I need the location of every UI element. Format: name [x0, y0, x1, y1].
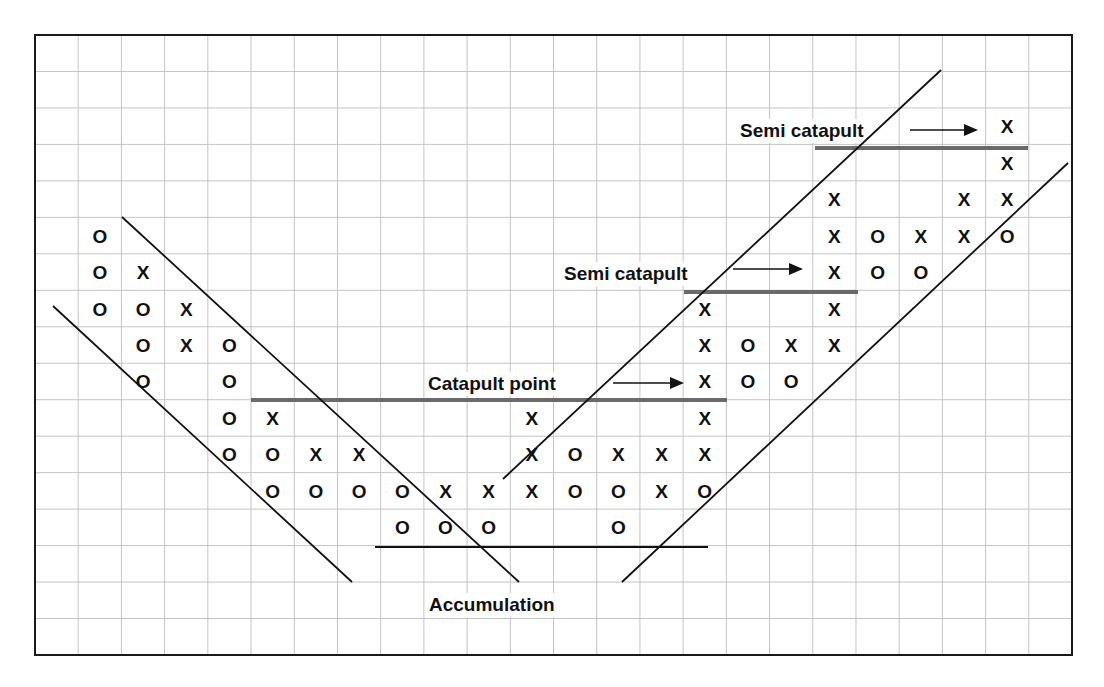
o-box: O	[741, 371, 756, 392]
x-box: X	[655, 481, 668, 502]
x-box: X	[828, 226, 841, 247]
x-box: X	[180, 335, 193, 356]
o-box: O	[92, 262, 107, 283]
x-box: X	[698, 371, 711, 392]
o-box: O	[308, 481, 323, 502]
o-box: O	[136, 299, 151, 320]
x-box: X	[698, 444, 711, 465]
x-box: X	[439, 481, 452, 502]
o-box: O	[395, 481, 410, 502]
x-box: X	[1001, 116, 1014, 137]
x-box: X	[828, 262, 841, 283]
o-box: O	[741, 335, 756, 356]
o-box: O	[611, 517, 626, 538]
x-box: X	[828, 335, 841, 356]
x-box: X	[914, 226, 927, 247]
x-box: X	[1001, 153, 1014, 174]
x-box: X	[180, 299, 193, 320]
o-box: O	[222, 444, 237, 465]
uptrend-lower-line	[622, 163, 1068, 582]
arrow-right-icon	[789, 263, 803, 275]
x-box: X	[698, 408, 711, 429]
o-box: O	[222, 335, 237, 356]
o-box: O	[568, 444, 583, 465]
point-and-figure-chart: OOOXOOOXXOOOOXOOXOXOOOXOXOXXXOOXOOXXXXXX…	[0, 0, 1104, 687]
annotation-catapult-point: Catapult point	[426, 372, 684, 396]
annotation-label: Semi catapult	[740, 120, 864, 141]
o-box: O	[913, 262, 928, 283]
x-box: X	[482, 481, 495, 502]
o-box: O	[481, 517, 496, 538]
o-box: O	[92, 226, 107, 247]
x-box: X	[526, 481, 539, 502]
x-box: X	[958, 226, 971, 247]
x-box: X	[612, 444, 625, 465]
o-box: O	[611, 481, 626, 502]
annotation-accumulation: Accumulation	[427, 593, 565, 617]
o-box: O	[222, 408, 237, 429]
annotation-label: Catapult point	[428, 373, 556, 394]
x-box: X	[353, 444, 366, 465]
annotations: Catapult pointSemi catapultSemi catapult…	[426, 119, 978, 617]
o-box: O	[265, 444, 280, 465]
o-box: O	[92, 299, 107, 320]
o-box: O	[870, 262, 885, 283]
x-box: X	[526, 408, 539, 429]
x-box: X	[1001, 189, 1014, 210]
x-box: X	[785, 335, 798, 356]
o-box: O	[136, 335, 151, 356]
annotation-label: Accumulation	[429, 594, 555, 615]
o-box: O	[438, 517, 453, 538]
o-box: O	[222, 371, 237, 392]
x-box: X	[266, 408, 279, 429]
x-box: X	[828, 299, 841, 320]
x-box: X	[828, 189, 841, 210]
annotation-label: Semi catapult	[564, 263, 688, 284]
arrow-right-icon	[964, 124, 978, 136]
annotation-semi-catapult: Semi catapult	[562, 262, 803, 286]
x-box: X	[310, 444, 323, 465]
o-box: O	[352, 481, 367, 502]
downtrend-lower-line	[53, 306, 352, 582]
o-box: O	[1000, 226, 1015, 247]
x-box: X	[958, 189, 971, 210]
o-box: O	[784, 371, 799, 392]
x-box: X	[698, 299, 711, 320]
o-box: O	[568, 481, 583, 502]
o-box: O	[265, 481, 280, 502]
o-box: O	[395, 517, 410, 538]
arrow-right-icon	[670, 377, 684, 389]
x-box: X	[655, 444, 668, 465]
x-box: X	[137, 262, 150, 283]
x-box: X	[698, 335, 711, 356]
o-box: O	[870, 226, 885, 247]
